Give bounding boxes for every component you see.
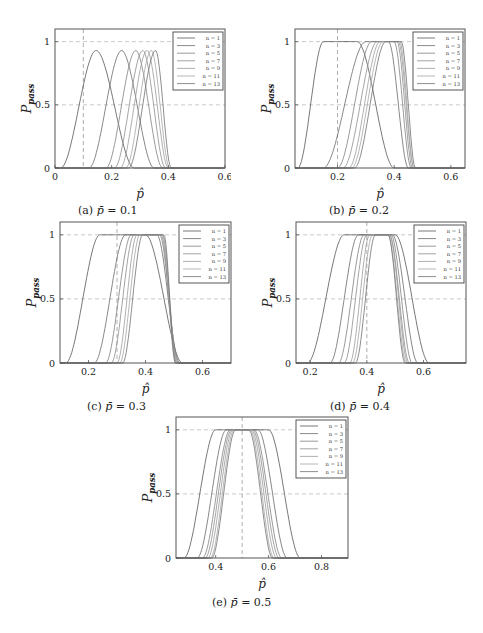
y-tick-label: 0 [44, 163, 50, 174]
legend-entry: n = 5 [206, 50, 220, 56]
legend-entry: n = 7 [446, 58, 460, 64]
y-tick-label: 0 [49, 358, 55, 369]
caption-value: = 0.4 [356, 400, 390, 413]
y-tick-label: 0 [285, 358, 291, 369]
legend-entry: n = 9 [447, 258, 461, 264]
legend-entry: n = 1 [447, 228, 461, 234]
legend-entry: n = 1 [329, 423, 343, 429]
legend: n = 1n = 3n = 5n = 7n = 9n = 11n = 13 [414, 225, 464, 283]
x-tick-label: 0.4 [387, 171, 402, 182]
y-tick-label: 1 [285, 229, 291, 240]
y-axis-label: Ppass [19, 83, 36, 114]
x-tick-label: 0.6 [261, 561, 276, 572]
y-axis-label: Ppass [260, 277, 277, 308]
y-axis-label: Ppass [259, 83, 276, 114]
legend-entry: n = 7 [206, 58, 220, 64]
legend-entry: n = 3 [447, 236, 461, 242]
x-tick-label: 0.4 [138, 366, 153, 377]
legend-entry: n = 5 [446, 50, 460, 56]
legend: n = 1n = 3n = 5n = 7n = 9n = 11n = 13 [179, 225, 229, 283]
caption-symbol: p̄ [231, 596, 238, 609]
chart-panel-e: 00.510.40.60.8p̂Ppassn = 1n = 3n = 5n = … [136, 411, 354, 602]
legend-entry: n = 13 [325, 469, 343, 475]
y-tick-label: 0 [165, 553, 171, 564]
x-axis-label: p̂ [136, 187, 144, 201]
x-tick-label: 0.8 [314, 561, 329, 572]
y-axis-label: Ppass [140, 472, 157, 503]
legend-entry: n = 9 [446, 65, 460, 71]
chart-panel-a: 00.5100.20.40.6p̂Ppassn = 1n = 3n = 5n =… [15, 23, 231, 212]
chart-panel-c: 00.510.20.40.6p̂Ppassn = 1n = 3n = 5n = … [20, 216, 237, 407]
y-tick-label: 1 [284, 36, 290, 47]
x-tick-label: 0.2 [81, 366, 96, 377]
x-tick-label: 0.6 [416, 366, 431, 377]
caption-value: = 0.5 [238, 596, 272, 609]
x-tick-label: 0.6 [217, 171, 231, 182]
y-tick-label: 0.5 [276, 293, 291, 304]
legend-entry: n = 13 [208, 274, 226, 280]
legend-entry: n = 7 [212, 251, 226, 257]
x-tick-label: 0.4 [208, 561, 223, 572]
legend-entry: n = 11 [202, 73, 220, 79]
legend: n = 1n = 3n = 5n = 7n = 9n = 11n = 13 [173, 32, 223, 90]
legend-entry: n = 13 [443, 274, 461, 280]
x-tick-label: 0.6 [195, 366, 210, 377]
legend-entry: n = 11 [442, 73, 460, 79]
x-axis-label: p̂ [377, 382, 385, 396]
legend: n = 1n = 3n = 5n = 7n = 9n = 11n = 13 [296, 420, 346, 478]
caption-label: (e) [212, 596, 231, 609]
y-tick-label: 0.5 [275, 99, 290, 110]
legend-entry: n = 5 [212, 243, 226, 249]
subfigure-caption-e: (e) p̄ = 0.5 [212, 596, 271, 609]
x-tick-label: 0.6 [443, 171, 458, 182]
y-tick-label: 1 [165, 424, 171, 435]
chart-panel-b: 00.510.20.40.6p̂Ppassn = 1n = 3n = 5n = … [255, 23, 471, 212]
legend-entry: n = 5 [447, 243, 461, 249]
y-axis-label: Ppass [24, 277, 41, 308]
x-tick-label: 0.4 [359, 366, 374, 377]
x-tick-label: 0.2 [104, 171, 119, 182]
x-tick-label: 0 [52, 171, 58, 182]
caption-label: (c) [87, 400, 105, 413]
x-tick-label: 0.2 [303, 366, 318, 377]
y-tick-label: 0.5 [156, 488, 171, 499]
legend-entry: n = 3 [212, 236, 226, 242]
legend-entry: n = 11 [325, 461, 343, 467]
x-axis-label: p̂ [258, 577, 266, 591]
y-tick-label: 1 [49, 229, 55, 240]
legend-entry: n = 5 [329, 438, 343, 444]
legend-entry: n = 1 [212, 228, 226, 234]
legend-entry: n = 3 [206, 43, 220, 49]
y-tick-label: 0.5 [40, 293, 55, 304]
legend-entry: n = 11 [443, 266, 461, 272]
legend-entry: n = 9 [206, 65, 220, 71]
x-axis-label: p̂ [376, 187, 384, 201]
legend-entry: n = 1 [206, 35, 220, 41]
legend-entry: n = 3 [446, 43, 460, 49]
y-tick-label: 1 [44, 36, 50, 47]
legend-entry: n = 7 [447, 251, 461, 257]
legend-entry: n = 11 [208, 266, 226, 272]
x-tick-label: 0.2 [330, 171, 345, 182]
x-axis-label: p̂ [142, 382, 150, 396]
legend-entry: n = 1 [446, 35, 460, 41]
y-tick-label: 0 [284, 163, 290, 174]
legend-entry: n = 13 [202, 81, 220, 87]
legend-entry: n = 3 [329, 431, 343, 437]
legend-entry: n = 7 [329, 446, 343, 452]
legend-entry: n = 13 [442, 81, 460, 87]
chart-panel-d: 00.510.20.40.6p̂Ppassn = 1n = 3n = 5n = … [256, 216, 472, 407]
x-tick-label: 0.4 [161, 171, 176, 182]
legend-entry: n = 9 [329, 453, 343, 459]
legend: n = 1n = 3n = 5n = 7n = 9n = 11n = 13 [413, 32, 463, 90]
y-tick-label: 0.5 [35, 99, 50, 110]
legend-entry: n = 9 [212, 258, 226, 264]
